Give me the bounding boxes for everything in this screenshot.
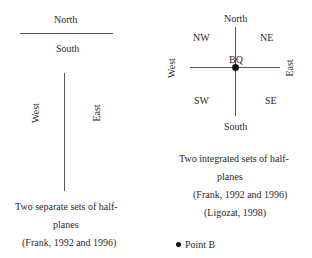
point-b-marker [232, 64, 239, 71]
right-vertical-axis [235, 27, 236, 116]
left-south-label: South [56, 43, 79, 55]
left-north-label: North [54, 14, 77, 26]
right-caption-line3: (Frank, 1992 and 1996) [193, 186, 287, 204]
right-caption-line2: planes [217, 168, 243, 186]
right-se-label: SE [265, 95, 277, 107]
right-caption-line4: (Ligozat, 1998) [204, 204, 266, 222]
legend-point-b: Point B [176, 236, 215, 254]
left-caption-line3: (Frank, 1992 and 1996) [22, 234, 116, 252]
left-west-label: West [30, 103, 42, 123]
left-horizontal-divider [20, 33, 113, 34]
left-east-label: East [91, 104, 103, 121]
right-sw-label: SW [194, 95, 209, 107]
right-south-label: South [224, 121, 247, 133]
right-ne-label: NE [260, 32, 273, 44]
right-north-label: North [224, 13, 247, 25]
legend-point-b-label: Point B [185, 239, 215, 250]
right-west-label: West [166, 58, 178, 78]
right-east-label: East [284, 59, 296, 76]
left-caption-line1: Two separate sets of half- [15, 198, 118, 216]
right-caption-line1: Two integrated sets of half- [179, 150, 289, 168]
left-vertical-divider [64, 73, 65, 191]
right-nw-label: NW [193, 32, 210, 44]
point-bullet-icon [176, 242, 181, 247]
left-caption-line2: planes [53, 216, 79, 234]
